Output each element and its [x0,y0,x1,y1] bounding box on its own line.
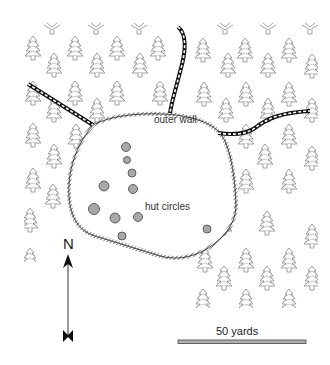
hut-circle [124,157,131,164]
hut-circle [118,232,126,240]
scale-bar [178,340,306,344]
hut-circle [110,213,120,223]
outer-wall-label: outer wall [154,114,197,125]
north-label: N [63,235,74,252]
hut-circle [134,213,143,222]
hut-circles-label: hut circles [145,201,190,212]
site-plan-map [0,0,330,365]
north-arrow [63,254,73,342]
hut-circle [203,225,211,233]
hut-circle [99,181,109,191]
hut-circle [89,204,100,215]
hut-circle [128,169,136,177]
scale-label: 50 yards [216,325,258,337]
hut-circle [122,143,131,152]
hut-circle [129,185,138,194]
